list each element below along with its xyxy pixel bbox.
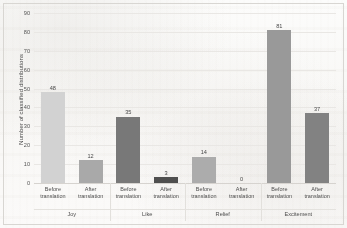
bar-value-label: 0 xyxy=(240,176,243,182)
bar-excitement-before[interactable]: 81 xyxy=(267,30,291,183)
bar-group-relief: 140 xyxy=(185,13,261,183)
x-axis-subcategory-label: Aftertranslation xyxy=(298,183,336,209)
x-axis-subcategory-label: Aftertranslation xyxy=(147,183,185,209)
bar-joy-before[interactable]: 48 xyxy=(41,92,65,183)
x-axis-subcategory-pair: BeforetranslationAftertranslation xyxy=(261,183,337,209)
bar-excitement-after[interactable]: 37 xyxy=(305,113,329,183)
y-tick-label-60: 60 xyxy=(24,67,30,73)
x-axis-subcategory-label: Aftertranslation xyxy=(223,183,261,209)
y-tick-label-40: 40 xyxy=(24,104,30,110)
bar-value-label: 81 xyxy=(276,23,282,29)
y-tick-label-90: 90 xyxy=(24,10,30,16)
bar-value-label: 12 xyxy=(88,153,94,159)
y-tick-label-50: 50 xyxy=(24,86,30,92)
bar-group-excitement: 8137 xyxy=(261,13,337,183)
x-axis-subcategory-label: Beforetranslation xyxy=(110,183,148,209)
x-axis-subcategory-pair: BeforetranslationAftertranslation xyxy=(34,183,110,209)
bar-slot: 14 xyxy=(185,13,223,183)
bar-group-like: 353 xyxy=(110,13,186,183)
bar-slot: 12 xyxy=(72,13,110,183)
plot-area: 0102030405060708090 48123531408137 xyxy=(34,13,336,183)
bar-slot: 3 xyxy=(147,13,185,183)
bar-value-label: 35 xyxy=(125,109,131,115)
x-axis-group-excitement: BeforetranslationAftertranslationExcitem… xyxy=(261,183,337,225)
bar-like-before[interactable]: 35 xyxy=(116,117,140,183)
x-axis-group-joy: BeforetranslationAftertranslationJoy xyxy=(34,183,110,225)
x-axis-separator xyxy=(261,209,337,210)
x-axis-group-label: Relief xyxy=(185,209,261,217)
bar-series: 48123531408137 xyxy=(34,13,336,183)
bar-slot: 48 xyxy=(34,13,72,183)
bar-slot: 81 xyxy=(261,13,299,183)
x-axis-group-label: Joy xyxy=(34,209,110,217)
x-axis-group-label: Like xyxy=(110,209,186,217)
x-axis-subcategory-label: Beforetranslation xyxy=(261,183,299,209)
x-axis-subcategory-pair: BeforetranslationAftertranslation xyxy=(185,183,261,209)
y-tick-label-80: 80 xyxy=(24,29,30,35)
x-axis-subcategory-label: Beforetranslation xyxy=(185,183,223,209)
x-axis-subcategory-label: Aftertranslation xyxy=(72,183,110,209)
y-tick-label-0: 0 xyxy=(27,180,30,186)
bar-value-label: 14 xyxy=(201,149,207,155)
y-tick-label-20: 20 xyxy=(24,142,30,148)
bar-value-label: 3 xyxy=(165,170,168,176)
bar-value-label: 37 xyxy=(314,106,320,112)
y-tick-label-10: 10 xyxy=(24,161,30,167)
y-tick-label-70: 70 xyxy=(24,48,30,54)
bar-value-label: 48 xyxy=(50,85,56,91)
x-axis-subcategory-label: Beforetranslation xyxy=(34,183,72,209)
x-axis-group-like: BeforetranslationAftertranslationLike xyxy=(110,183,186,225)
bar-slot: 0 xyxy=(223,13,261,183)
bar-slot: 37 xyxy=(298,13,336,183)
x-axis-labels: BeforetranslationAftertranslationJoyBefo… xyxy=(34,183,336,225)
x-axis-separator xyxy=(110,209,186,210)
x-axis-separator xyxy=(34,209,110,210)
x-axis-group-label: Excitement xyxy=(261,209,337,217)
bar-joy-after[interactable]: 12 xyxy=(79,160,103,183)
bar-slot: 35 xyxy=(110,13,148,183)
x-axis-subcategory-pair: BeforetranslationAftertranslation xyxy=(110,183,186,209)
x-axis-group-relief: BeforetranslationAftertranslationRelief xyxy=(185,183,261,225)
bar-group-joy: 4812 xyxy=(34,13,110,183)
y-axis-title: Number of classified distributions xyxy=(17,30,24,170)
x-axis-separator xyxy=(185,209,261,210)
scanned-chart-figure: Number of classified distributions 01020… xyxy=(0,0,347,228)
bar-relief-before[interactable]: 14 xyxy=(192,157,216,183)
y-tick-label-30: 30 xyxy=(24,123,30,129)
